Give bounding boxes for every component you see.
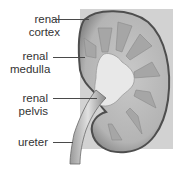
leader-line-cortex — [53, 19, 89, 20]
kidney-diagram: renal cortex renal medulla renal pelvis … — [0, 0, 183, 179]
label-text: ureter — [8, 136, 48, 149]
label-text: pelvis — [10, 105, 48, 118]
label-renal-cortex: renal cortex — [20, 13, 60, 38]
leader-line-pelvis — [53, 98, 97, 99]
label-renal-pelvis: renal pelvis — [10, 92, 48, 117]
label-text: renal — [10, 50, 48, 63]
label-renal-medulla: renal medulla — [10, 50, 48, 75]
leader-line-medulla — [53, 57, 85, 58]
label-text: medulla — [10, 63, 48, 76]
label-ureter: ureter — [8, 136, 48, 149]
label-text: renal — [10, 92, 48, 105]
label-text: cortex — [20, 26, 60, 39]
leader-line-ureter — [53, 142, 73, 143]
